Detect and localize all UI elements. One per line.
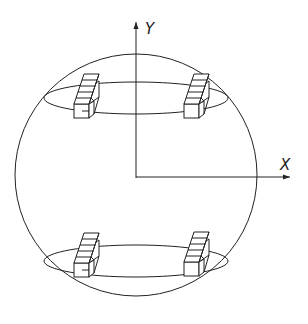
x-axis-label: X [279,156,291,174]
block-upper-right [184,74,209,118]
block-lower-left [74,233,99,277]
y-axis-label: Y [145,20,156,38]
sphere-diagram: Y X [0,0,308,324]
block-upper-left [74,74,99,118]
block-lower-right [184,232,209,276]
